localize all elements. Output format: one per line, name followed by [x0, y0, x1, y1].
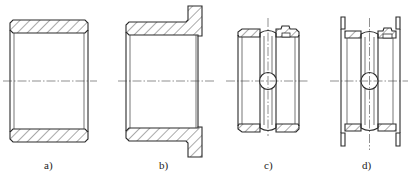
panel-label-b: b): [159, 159, 168, 171]
bottom-wall-section: [10, 129, 88, 142]
top-wall-section: [126, 6, 202, 36]
panel-label-c: c): [264, 159, 273, 171]
bottom-wall-section: [126, 127, 202, 157]
panel-d-double-flanged-bushing: [330, 17, 408, 150]
bearing-bushing-diagram: [0, 0, 408, 179]
top-wall-section: [10, 20, 88, 33]
oil-hole: [282, 33, 290, 37]
panel-label-d: d): [362, 159, 371, 171]
panel-a-plain-bushing: [3, 20, 97, 142]
oil-hole: [383, 34, 392, 38]
panel-c-grooved-bushing: [226, 18, 308, 136]
panel-b-flanged-bushing: [118, 6, 215, 157]
panel-label-a: a): [44, 159, 53, 171]
